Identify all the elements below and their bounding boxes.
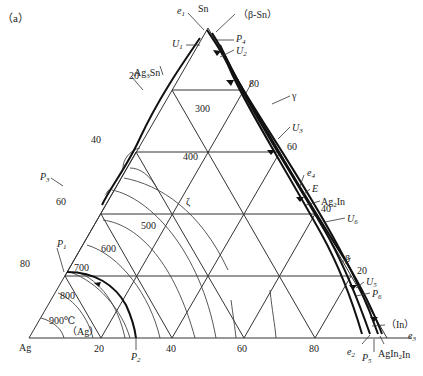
left-tick-60: 60 [56, 196, 66, 207]
isotherm-label-300: 300 [195, 103, 210, 114]
vertex-in: In [402, 349, 410, 360]
left-tick-80: 80 [20, 258, 30, 269]
panel-label: （a） [2, 13, 29, 24]
phase-ag2in: Ag2In [321, 196, 345, 211]
point-p2: P2 [131, 351, 141, 366]
bottom-tick-40: 40 [166, 343, 176, 354]
point-e3: e3 [408, 330, 416, 345]
isotherm-500 [103, 220, 195, 338]
isotherm-label-700: 700 [74, 262, 89, 273]
point-E: E [312, 183, 318, 194]
point-p6: P6 [372, 288, 382, 303]
phase-gamma: γ [292, 90, 296, 101]
bottom-tick-80: 80 [309, 343, 319, 354]
isotherm-label-800: 800 [60, 290, 75, 301]
right-tick-20: 20 [357, 265, 367, 276]
phase-zeta: ζ [186, 196, 190, 207]
point-e2: e2 [347, 346, 355, 361]
isotherm-label-900: 900℃ [49, 315, 75, 326]
point-u2: U2 [236, 45, 247, 60]
phase-ag3sn: Ag3Sn [134, 67, 160, 82]
isotherm-label-400: 400 [183, 151, 198, 162]
point-e1: e1 [177, 5, 185, 20]
right-tick-80: 80 [249, 78, 259, 89]
triangle-outline [29, 28, 387, 338]
bottom-tick-60: 60 [237, 343, 247, 354]
isotherm-label-500: 500 [141, 220, 156, 231]
point-p3: P3 [40, 171, 50, 186]
point-u3: U3 [292, 122, 303, 137]
point-p1: P1 [57, 238, 67, 253]
left-tick-40: 40 [91, 134, 101, 145]
point-u6: U6 [347, 213, 358, 228]
isotherm-label-600: 600 [101, 243, 116, 254]
point-e4: e4 [307, 167, 315, 182]
right-tick-60: 60 [287, 141, 297, 152]
isotherm-400 [124, 178, 228, 270]
ternary-phase-diagram: （a） Sn Ag In 20 40 60 80 80 60 40 20 20 … [0, 0, 423, 376]
phase-ag-solid: （Ag） [67, 326, 99, 337]
bottom-tick-20: 20 [94, 343, 104, 354]
phase-in-solid: （In） [386, 319, 414, 330]
phase-beta-sn: （β-Sn） [238, 9, 277, 20]
isotherm-600 [87, 245, 160, 338]
point-p5: P5 [362, 352, 372, 367]
phase-beta: β [345, 253, 350, 264]
vertex-sn: Sn [198, 3, 209, 14]
vertex-ag: Ag [19, 342, 31, 353]
point-u1: U1 [172, 38, 183, 53]
phase-agin2: AgIn2 [378, 348, 402, 363]
